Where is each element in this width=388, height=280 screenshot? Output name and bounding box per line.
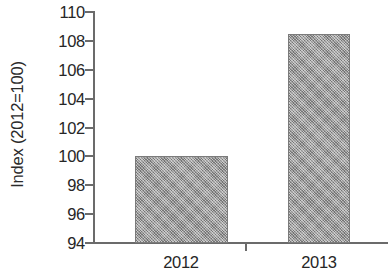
- x-axis-tick-label: 2013: [301, 254, 337, 271]
- y-axis-tick-mark: [85, 98, 94, 100]
- x-axis-tick-mark: [245, 244, 247, 251]
- y-axis-tick-mark: [85, 40, 94, 42]
- y-axis-tick-label: 96: [33, 206, 85, 223]
- bar-2012: [135, 156, 228, 243]
- y-axis-tick-label: 108: [33, 33, 85, 50]
- y-axis-tick-label: 110: [33, 4, 85, 21]
- y-axis-tick-label: 94: [33, 235, 85, 252]
- y-axis-tick-mark: [85, 127, 94, 129]
- y-axis-tick-mark: [85, 242, 94, 244]
- y-axis-tick-mark: [85, 213, 94, 215]
- y-axis-title: Index (2012=100): [0, 0, 34, 248]
- y-axis-tick-label: 98: [33, 177, 85, 194]
- y-axis-tick-label: 106: [33, 62, 85, 79]
- y-axis-tick-label: 100: [33, 148, 85, 165]
- x-axis-tick-label: 2012: [163, 254, 199, 271]
- y-axis-tick-mark: [85, 69, 94, 71]
- y-axis-tick-labels: 949698100102104106108110: [33, 0, 85, 280]
- y-axis-title-text: Index (2012=100): [8, 61, 27, 188]
- y-axis-tick-label: 102: [33, 120, 85, 137]
- y-axis-tick-label: 104: [33, 91, 85, 108]
- bar-2013: [288, 34, 350, 243]
- y-axis-tick-mark: [85, 11, 94, 13]
- bar-chart: Index (2012=100) 94969810010210410610811…: [0, 0, 388, 280]
- y-axis-tick-mark: [85, 155, 94, 157]
- y-axis-tick-mark: [85, 184, 94, 186]
